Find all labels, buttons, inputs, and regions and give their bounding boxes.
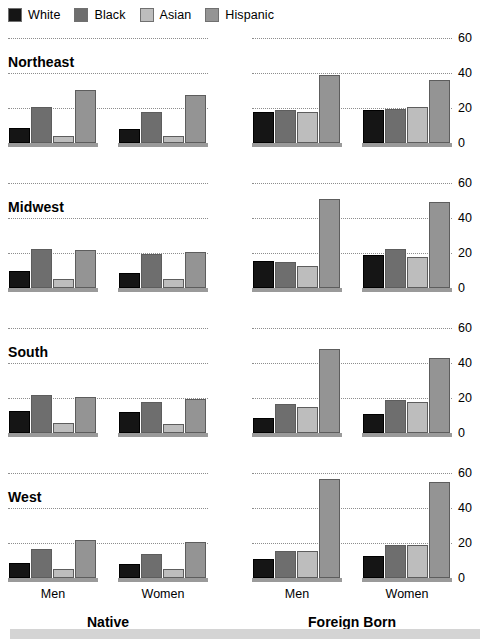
chart-legend: WhiteBlackAsianHispanic: [8, 5, 288, 25]
plot-south-foreign-born: [252, 320, 452, 440]
bar-hispanic: [185, 542, 206, 578]
bar-asian: [407, 545, 428, 578]
bar-asian: [53, 136, 74, 143]
bar-black: [385, 109, 406, 143]
sex-label-men: Men: [8, 587, 98, 601]
region-row-west: WestMenWomenMenWomen6040200: [0, 465, 490, 610]
bar-hispanic: [429, 202, 450, 288]
legend-swatch-white: [8, 8, 22, 22]
region-title-west: West: [8, 489, 42, 505]
bar-white: [253, 418, 274, 433]
bar-hispanic: [429, 482, 450, 578]
bar-asian: [163, 279, 184, 288]
y-axis-tick-0: 0: [458, 281, 465, 295]
bar-asian: [53, 569, 74, 578]
y-axis-tick-60: 60: [458, 466, 472, 480]
bar-white: [9, 271, 30, 288]
region-row-south: South6040200: [0, 320, 490, 465]
bar-white: [363, 414, 384, 433]
bar-group-men: [253, 30, 341, 143]
bar-white: [119, 564, 140, 578]
bar-hispanic: [319, 479, 340, 578]
legend-swatch-asian: [140, 8, 154, 22]
bar-asian: [163, 424, 184, 433]
nativity-label-foreign: Foreign Born: [262, 614, 442, 630]
bar-group-women: [119, 320, 207, 433]
bar-group-women: [119, 30, 207, 143]
axis-baseline: [118, 288, 208, 292]
region-title-midwest: Midwest: [8, 199, 64, 215]
axis-baseline: [118, 143, 208, 147]
sex-label-women: Women: [362, 587, 452, 601]
y-axis-tick-0: 0: [458, 571, 465, 585]
bar-black: [385, 400, 406, 433]
bar-hispanic: [75, 90, 96, 143]
bar-black: [31, 549, 52, 578]
axis-baseline: [362, 143, 452, 147]
plot-west-foreign-born: MenWomen: [252, 465, 452, 585]
y-axis-tick-20: 20: [458, 536, 472, 550]
bar-black: [275, 404, 296, 433]
bar-group-women: [363, 175, 451, 288]
bar-group-women: [119, 465, 207, 578]
bar-group-men: [9, 465, 97, 578]
bar-group-women: [363, 465, 451, 578]
bar-asian: [297, 112, 318, 143]
region-row-midwest: Midwest6040200: [0, 175, 490, 320]
axis-baseline: [252, 433, 342, 437]
plot-midwest-native: [8, 175, 208, 295]
bar-white: [363, 556, 384, 578]
axis-baseline: [118, 433, 208, 437]
bar-white: [119, 412, 140, 433]
bar-white: [9, 411, 30, 433]
sex-label-women: Women: [118, 587, 208, 601]
bar-hispanic: [75, 397, 96, 433]
bar-asian: [163, 569, 184, 578]
bar-black: [31, 249, 52, 288]
sex-label-men: Men: [252, 587, 342, 601]
bar-group-men: [253, 465, 341, 578]
axis-baseline: [8, 578, 98, 582]
legend-item-black: Black: [74, 8, 125, 22]
legend-label-asian: Asian: [160, 8, 192, 22]
bar-white: [119, 273, 140, 288]
bar-asian: [163, 136, 184, 143]
bar-asian: [53, 423, 74, 433]
legend-label-black: Black: [94, 8, 125, 22]
axis-baseline: [362, 578, 452, 582]
bar-black: [385, 249, 406, 288]
bar-black: [275, 551, 296, 578]
y-axis-tick-20: 20: [458, 391, 472, 405]
bar-white: [363, 255, 384, 288]
axis-baseline: [8, 433, 98, 437]
bar-asian: [407, 257, 428, 288]
bar-black: [31, 395, 52, 433]
chart-panels: Northeast6040200Midwest6040200South60402…: [0, 30, 490, 605]
bar-hispanic: [185, 95, 206, 143]
y-axis-tick-40: 40: [458, 211, 472, 225]
bar-asian: [297, 266, 318, 288]
bar-group-women: [363, 30, 451, 143]
bar-hispanic: [185, 399, 206, 433]
plot-midwest-foreign-born: [252, 175, 452, 295]
bar-group-men: [9, 320, 97, 433]
axis-baseline: [8, 143, 98, 147]
bar-hispanic: [319, 75, 340, 143]
bar-asian: [407, 402, 428, 433]
legend-swatch-black: [74, 8, 88, 22]
bar-black: [141, 112, 162, 143]
legend-label-hispanic: Hispanic: [225, 8, 274, 22]
bar-white: [119, 129, 140, 143]
axis-baseline: [118, 578, 208, 582]
legend-item-white: White: [8, 8, 60, 22]
y-axis-tick-40: 40: [458, 66, 472, 80]
bar-hispanic: [319, 199, 340, 288]
bar-black: [275, 110, 296, 143]
plot-south-native: [8, 320, 208, 440]
y-axis-tick-60: 60: [458, 321, 472, 335]
region-title-northeast: Northeast: [8, 54, 74, 70]
axis-baseline: [252, 288, 342, 292]
footer-bar: [10, 629, 480, 639]
bar-hispanic: [429, 80, 450, 143]
bar-asian: [53, 279, 74, 288]
